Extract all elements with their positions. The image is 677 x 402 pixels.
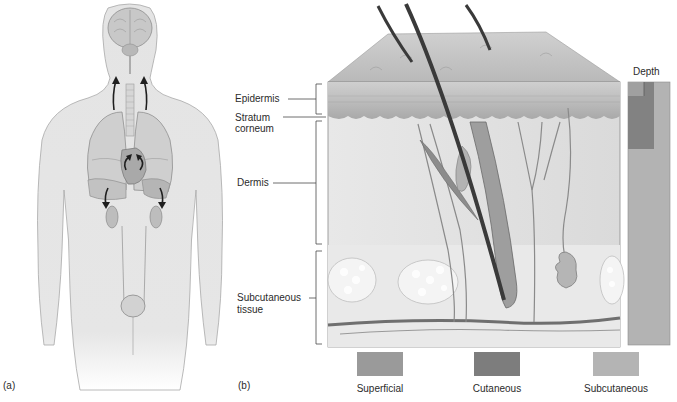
skin-surface [328,32,620,82]
layer-brackets [273,84,326,344]
panel-a-label: (a) [3,380,15,391]
trachea [126,84,134,136]
depth-bar [628,82,670,345]
legend-label-cutaneous: Cutaneous [452,383,542,394]
stomach [142,179,170,199]
epidermis-layer [328,82,620,119]
dermis-label: Dermis [237,177,269,188]
legend-swatch-superficial [357,352,403,376]
panel-b-label: (b) [238,380,250,391]
kidney-right [150,206,162,228]
legend-swatch-subcutaneous [593,352,639,376]
epidermis-label: Epidermis [235,93,279,104]
skin-block [328,4,624,347]
subcutaneous-label-line1: Subcutaneous [237,292,301,303]
legend-label-superficial: Superficial [335,383,425,394]
kidney-left [106,206,118,228]
sweat-gland [555,252,576,288]
bladder [121,295,145,317]
depth-title: Depth [633,66,660,77]
body-illustration [0,0,677,402]
legend-swatch-cutaneous [474,352,520,376]
subcutaneous-label-line2: tissue [237,304,263,315]
depth-superficial [628,82,644,96]
legend-label-subcutaneous: Subcutaneous [571,383,661,394]
stratum-corneum-label-line2: corneum [235,123,274,134]
stratum-corneum-label-line1: Stratum [235,112,270,123]
